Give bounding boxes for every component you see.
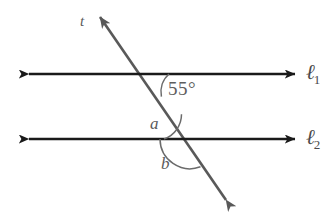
label-angle-55: 55° — [168, 79, 196, 98]
label-line-l2: ℓ2 — [306, 127, 320, 151]
label-transversal-t: t — [80, 14, 84, 29]
label-line-l1: ℓ1 — [306, 62, 320, 86]
label-angle-a: a — [150, 115, 159, 132]
angle-arc-a — [164, 114, 182, 139]
geometry-figure: t 55° a b ℓ1 ℓ2 — [0, 0, 333, 212]
label-angle-b: b — [161, 155, 170, 172]
label-line-l2-subscript: 2 — [314, 137, 321, 152]
label-line-l1-subscript: 1 — [314, 72, 321, 87]
geometry-canvas — [0, 0, 333, 212]
